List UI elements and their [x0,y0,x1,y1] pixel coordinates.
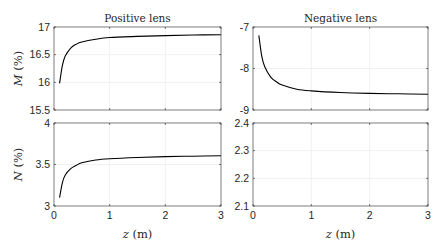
x-tick-label: 3 [218,209,224,221]
y-tick-label: 2.4 [234,117,249,129]
y-tick-label: 17 [38,21,50,33]
x-tick-label: 2 [367,209,373,221]
y-tick-label: 2.3 [234,144,249,156]
y-tick-label: 3 [44,200,50,212]
top-right-panel: -9-8-7Negative lens [240,12,428,116]
y-tick-label: -9 [240,104,249,116]
bottom-right-panel: 2.12.22.32.40123z (m) [234,117,431,241]
y-tick-label: 16.5 [30,48,51,60]
y-tick-label: 2.2 [234,172,249,184]
figure: 15.51616.517Positive lensM (%)-9-8-7Nega… [0,0,442,250]
x-tick-label: 1 [308,209,314,221]
x-tick-label: 0 [51,209,57,221]
y-tick-label: 16 [38,76,50,88]
bottom-left-panel: 33.540123z (m)N (%) [11,117,224,241]
x-tick-label: 1 [107,209,113,221]
y-tick-label: 4 [44,117,50,129]
x-axis-label: z (m) [325,227,356,241]
x-tick-label: 2 [162,209,168,221]
y-tick-label: -8 [240,62,249,74]
panel-title: Negative lens [304,12,377,24]
y-axis-label: M (%) [11,51,25,87]
y-axis-label: N (%) [11,148,25,183]
top-left-panel: 15.51616.517Positive lensM (%) [11,12,221,116]
panel-title: Positive lens [104,12,171,24]
x-tick-label: 0 [250,209,256,221]
y-tick-label: -7 [240,21,249,33]
y-tick-label: 2.1 [234,200,249,212]
y-tick-label: 3.5 [35,158,50,170]
y-tick-label: 15.5 [30,104,51,116]
x-tick-label: 3 [425,209,431,221]
x-axis-label: z (m) [122,227,153,241]
